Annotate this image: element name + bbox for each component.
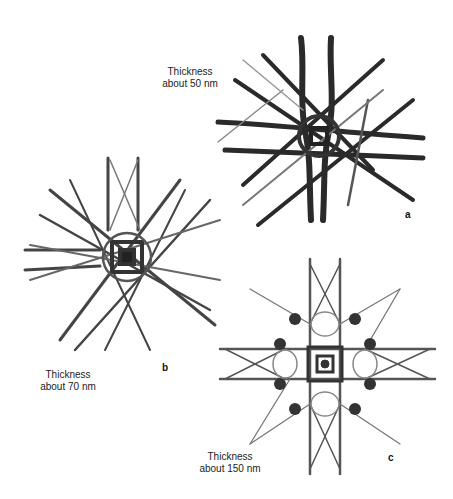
caption-b-line2: about 70 nm [28, 381, 108, 393]
panel-label-c: c [388, 452, 394, 463]
caption-a-line1: Thickness [140, 66, 240, 78]
kikuchi-pattern-b [20, 150, 235, 365]
caption-c-line1: Thickness [190, 451, 270, 463]
caption-c-line2: about 150 nm [190, 463, 270, 475]
panel-label-b: b [162, 362, 168, 373]
panel-label-a: a [405, 209, 411, 220]
kikuchi-pattern-a [213, 30, 433, 235]
kikuchi-pattern-c [215, 254, 440, 479]
diffraction-figure: Thickness about 50 nm a [0, 0, 453, 499]
caption-b: Thickness about 70 nm [28, 369, 108, 393]
caption-b-line1: Thickness [28, 369, 108, 381]
caption-c: Thickness about 150 nm [190, 451, 270, 475]
caption-a-line2: about 50 nm [140, 78, 240, 90]
caption-a: Thickness about 50 nm [140, 66, 240, 90]
